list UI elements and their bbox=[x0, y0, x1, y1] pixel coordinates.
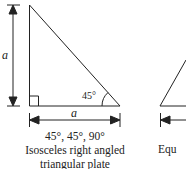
caption-line2: triangular plate bbox=[15, 157, 135, 169]
right-triangle-plate bbox=[30, 5, 121, 106]
caption-second-figure: Equ bbox=[158, 143, 177, 155]
second-triangle-partial bbox=[160, 60, 186, 127]
caption-angles: 45°, 45°, 90° bbox=[15, 129, 135, 143]
vertical-side-label: a bbox=[2, 48, 8, 63]
horizontal-side-label: a bbox=[71, 106, 77, 121]
angle-arc bbox=[102, 93, 108, 107]
caption-line1: Isosceles right angled bbox=[15, 143, 135, 157]
vertical-dimension-arrow bbox=[7, 5, 20, 106]
angle-label: 45° bbox=[82, 90, 96, 101]
right-angle-marker bbox=[30, 96, 39, 106]
